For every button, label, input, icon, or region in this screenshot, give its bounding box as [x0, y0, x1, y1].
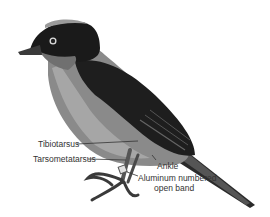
tibiotarsus-label: Tibiotarsus: [38, 139, 79, 149]
band-label-line1: Aluminum numbered: [138, 173, 216, 183]
bird-diagram: Tibiotarsus Tarsometatarsus Ankle Alumin…: [0, 0, 270, 217]
band-label-line2: open band: [154, 183, 194, 193]
tarsometatarsus-label: Tarsometatarsus: [33, 154, 96, 164]
bird-illustration: [0, 0, 270, 217]
ankle-label: Ankle: [157, 161, 178, 171]
